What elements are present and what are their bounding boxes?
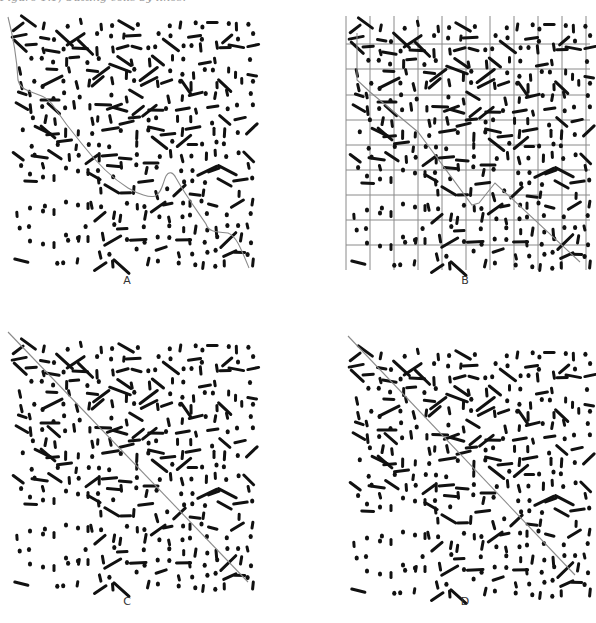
panel-b-cell-mark bbox=[494, 33, 498, 38]
panel-a-cell-mark bbox=[132, 67, 136, 72]
panel-d-cell-mark bbox=[447, 394, 468, 402]
panel-c-cell-mark bbox=[12, 357, 26, 360]
panel-b-cell-mark bbox=[493, 194, 495, 201]
panel-a-cell-mark bbox=[190, 168, 194, 173]
panel-d-cell-mark bbox=[486, 389, 487, 396]
panel-a-cell-mark bbox=[210, 121, 214, 126]
panel-a-cell-mark bbox=[219, 80, 231, 92]
panel-d-cell-mark bbox=[434, 386, 438, 391]
panel-a-cell-mark bbox=[215, 93, 216, 99]
panel-c-cell-mark bbox=[143, 563, 147, 568]
panel-c-cell-mark bbox=[190, 562, 191, 567]
panel-a-cell-mark bbox=[109, 93, 113, 98]
panel-d-cell-mark bbox=[413, 533, 417, 538]
panel-a-cell-mark bbox=[237, 150, 241, 155]
panel-c-cell-mark bbox=[157, 537, 161, 542]
panel-a-cell-mark bbox=[147, 117, 151, 122]
panel-a-cell-mark bbox=[167, 223, 171, 228]
panel-b-cell-mark bbox=[436, 254, 438, 260]
panel-b-cell-mark bbox=[417, 21, 418, 25]
panel-d-cell-mark bbox=[350, 483, 360, 491]
panel-d-cell-mark bbox=[564, 420, 565, 425]
panel-b-cell-mark bbox=[573, 132, 577, 137]
panel-d-cell-mark bbox=[489, 467, 504, 479]
panel-a-cell-mark bbox=[249, 240, 253, 245]
panel-a-cell-mark bbox=[21, 127, 25, 132]
panel-d-cell-mark bbox=[547, 451, 551, 456]
panel-b-cell-mark bbox=[527, 180, 531, 185]
panel-b-cell-mark bbox=[587, 178, 591, 183]
panel-a-cell-mark bbox=[84, 224, 88, 229]
panel-c-cell-mark bbox=[157, 354, 161, 359]
panel-a-cell-mark bbox=[200, 37, 204, 42]
panel-a-cell-mark bbox=[26, 44, 36, 45]
panel-b-cell-mark bbox=[438, 26, 439, 31]
panel-a-cell-mark bbox=[12, 34, 26, 37]
panel-a-cell-mark bbox=[221, 233, 236, 248]
panel-d-cell-mark bbox=[448, 504, 452, 509]
panel-a-cell-mark bbox=[182, 43, 186, 48]
panel-c-cell-mark bbox=[107, 467, 111, 472]
panel-c-cell-mark bbox=[216, 365, 217, 371]
panel-b-cell-mark bbox=[363, 46, 373, 47]
panel-c-cell-mark bbox=[179, 491, 183, 496]
panel-a-cell-mark bbox=[161, 134, 175, 135]
panel-c-cell-mark bbox=[58, 463, 72, 465]
panel-b-cell-mark bbox=[584, 126, 595, 136]
panel-c-cell-mark bbox=[241, 557, 242, 564]
panel-c-cell-mark bbox=[102, 556, 103, 563]
panel-c-cell-mark bbox=[167, 546, 171, 551]
panel-b-cell-mark bbox=[434, 58, 438, 63]
panel-a-cell-mark bbox=[119, 128, 123, 133]
panel-b-cell-mark bbox=[507, 141, 511, 146]
panel-d-cell-mark bbox=[573, 460, 577, 465]
panel-c-cell-mark bbox=[252, 522, 253, 528]
panel-a-cell-mark bbox=[149, 127, 164, 130]
panel-c-cell-mark bbox=[182, 451, 183, 458]
panel-a-cell-mark bbox=[157, 31, 161, 36]
panel-d-cell-mark bbox=[540, 570, 544, 575]
panel-c-cell-mark bbox=[134, 485, 138, 490]
panel-c-cell-mark bbox=[74, 425, 75, 432]
panel-c-cell-mark bbox=[200, 348, 204, 353]
panel-d-cell-mark bbox=[378, 572, 382, 577]
panel-d-cell-mark bbox=[530, 592, 534, 597]
panel-c-cell-mark bbox=[61, 583, 65, 588]
panel-b-cell-mark bbox=[511, 187, 522, 198]
panel-b-cell-mark bbox=[414, 261, 415, 265]
panel-d-cell-mark bbox=[583, 582, 587, 587]
panel-a-cell-mark bbox=[27, 224, 31, 229]
panel-c-cell-mark bbox=[79, 560, 80, 565]
panel-d-cell-mark bbox=[444, 582, 448, 587]
panel-c-cell-mark bbox=[41, 361, 49, 363]
panel-d-cell-mark bbox=[422, 390, 426, 395]
panel-d-cell-mark bbox=[463, 365, 477, 366]
panel-c-cell-mark bbox=[219, 489, 237, 498]
panel-b-cell-mark bbox=[559, 143, 563, 148]
panel-d-cell-mark bbox=[454, 559, 464, 560]
panel-d-cell-mark bbox=[502, 516, 506, 521]
panel-b-cell-mark bbox=[540, 242, 544, 247]
panel-a-cell-mark bbox=[248, 75, 257, 77]
panel-d-cell-mark bbox=[436, 582, 438, 588]
panel-d-cell-mark bbox=[378, 539, 382, 544]
panel-d-cell-mark bbox=[590, 589, 591, 596]
panel-a-cell-mark bbox=[142, 224, 146, 229]
panel-d-cell-mark bbox=[584, 554, 585, 558]
panel-d-cell-mark bbox=[414, 589, 415, 593]
panel-a-cell-mark bbox=[58, 140, 72, 142]
panel-b-cell-mark bbox=[469, 69, 473, 74]
panel-d-cell-mark bbox=[484, 447, 488, 452]
panel-d-cell-mark bbox=[454, 376, 465, 379]
panel-a-cell-mark bbox=[85, 60, 89, 65]
panel-b-cell-mark bbox=[401, 202, 405, 207]
panel-c-cell-mark bbox=[133, 429, 143, 437]
panel-c-cell-mark bbox=[29, 414, 30, 419]
panel-a-cell-mark bbox=[163, 203, 172, 205]
panel-a-cell-mark bbox=[41, 38, 49, 40]
panel-b-cell-mark bbox=[386, 153, 399, 161]
panel-a-cell-mark bbox=[251, 31, 255, 36]
panel-d-cell-mark bbox=[562, 553, 566, 558]
panel-a-cell-mark bbox=[43, 23, 44, 29]
panel-d-cell-mark bbox=[469, 408, 473, 413]
